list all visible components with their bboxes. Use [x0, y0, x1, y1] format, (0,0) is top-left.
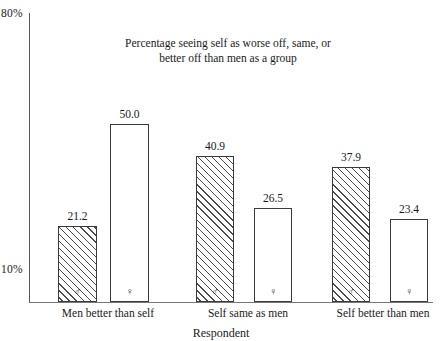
- male-symbol-icon: ♂: [197, 286, 233, 297]
- male-symbol-icon: ♂: [333, 286, 369, 297]
- female-symbol-icon: ♀: [255, 286, 291, 297]
- bar-value-label: 23.4: [390, 203, 428, 215]
- bar-men-men-better-than-self: ♂: [58, 226, 97, 302]
- bar-women-men-better-than-self: ♀: [110, 124, 149, 302]
- x-axis-title: Respondent: [0, 326, 442, 341]
- male-symbol-icon: ♂: [59, 286, 96, 297]
- bar-men-self-better-than-men: ♂: [332, 167, 370, 302]
- bar-value-label: 21.2: [58, 210, 97, 222]
- female-symbol-icon: ♀: [391, 286, 427, 297]
- x-axis-category-label-2: Self better than men: [308, 307, 442, 319]
- bar-men-self-same-as-men: ♂: [196, 156, 234, 302]
- bar-women-self-same-as-men: ♀: [254, 208, 292, 302]
- bar-women-self-better-than-men: ♀: [390, 219, 428, 302]
- female-symbol-icon: ♀: [111, 286, 148, 297]
- bar-value-label: 40.9: [196, 140, 234, 152]
- bar-value-label: 50.0: [110, 108, 149, 120]
- bar-value-label: 26.5: [254, 192, 292, 204]
- x-axis-category-label-0: Men better than self: [28, 307, 188, 319]
- bar-value-label: 37.9: [332, 151, 370, 163]
- x-axis-category-label-1: Self same as men: [178, 307, 318, 319]
